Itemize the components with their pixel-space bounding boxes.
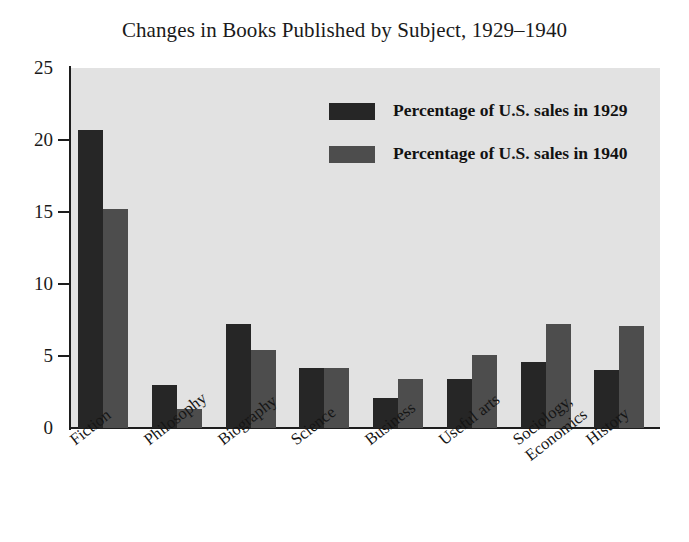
legend-swatch-1940-icon xyxy=(329,146,375,163)
legend-label-1929: Percentage of U.S. sales in 1929 xyxy=(393,100,627,121)
y-tick-label: 15 xyxy=(34,202,53,221)
legend-label-1940: Percentage of U.S. sales in 1940 xyxy=(393,143,627,164)
chart-legend: Percentage of U.S. sales in 1929 Percent… xyxy=(329,100,649,187)
y-tick-label: 10 xyxy=(34,274,53,293)
y-tick-label: 25 xyxy=(34,58,53,77)
legend-item-1940: Percentage of U.S. sales in 1940 xyxy=(329,143,649,164)
bar-fiction-1940 xyxy=(103,209,128,428)
y-tick-label: 20 xyxy=(34,130,53,149)
legend-swatch-1929-icon xyxy=(329,103,375,120)
x-axis-category-labels: FictionPhilosophyBiographyScienceBusines… xyxy=(0,428,689,542)
bar-fiction-1929 xyxy=(78,130,103,428)
bar-chart-figure: Changes in Books Published by Subject, 1… xyxy=(0,0,689,542)
chart-title: Changes in Books Published by Subject, 1… xyxy=(0,18,689,43)
y-tick-label: 5 xyxy=(44,346,54,365)
legend-item-1929: Percentage of U.S. sales in 1929 xyxy=(329,100,649,121)
